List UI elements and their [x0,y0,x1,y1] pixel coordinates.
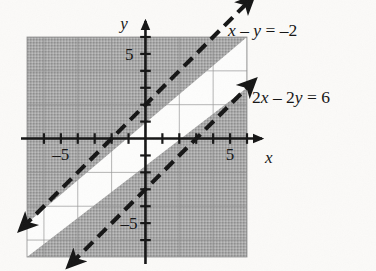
coordinate-plane-svg: y x –5 5 5 –5 x – y = –2 2x – 2y = 6 [0,0,376,271]
graph-figure: y x –5 5 5 –5 x – y = –2 2x – 2y = 6 [0,0,376,271]
paper-texture [0,0,376,271]
